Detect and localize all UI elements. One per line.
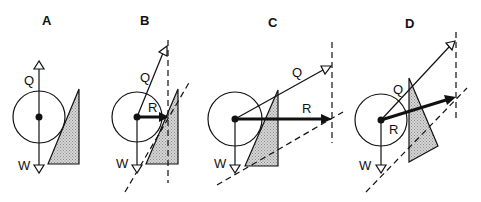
panel-d: D Q R W xyxy=(355,16,467,192)
label-r: R xyxy=(389,122,398,137)
panel-a: A Q W xyxy=(13,13,79,173)
arrowhead-q-icon xyxy=(321,66,331,74)
label-q: Q xyxy=(140,70,150,85)
label-r: R xyxy=(302,101,311,116)
panel-label-c: C xyxy=(268,15,278,30)
wedge xyxy=(245,90,278,166)
arrowhead-q-icon xyxy=(159,46,167,56)
label-w: W xyxy=(359,158,372,173)
arrowhead-w-icon xyxy=(34,165,44,173)
label-w: W xyxy=(18,158,31,173)
center-point xyxy=(232,116,239,123)
arrowhead-w-icon xyxy=(132,165,142,173)
center-point xyxy=(134,114,141,121)
arrowhead-w-icon xyxy=(376,165,386,173)
center-point xyxy=(36,114,43,121)
arrowhead-q-icon xyxy=(34,61,44,69)
arrowhead-r-icon xyxy=(444,95,456,105)
dashed-diagonal-line xyxy=(125,81,190,192)
label-r: R xyxy=(148,100,157,115)
label-q: Q xyxy=(393,82,403,97)
panel-label-d: D xyxy=(405,16,414,31)
arrowhead-r-icon xyxy=(321,114,332,124)
panel-b: B Q R W xyxy=(112,13,190,192)
label-w: W xyxy=(116,156,129,171)
label-w: W xyxy=(214,156,227,171)
panel-c: C Q R W xyxy=(208,15,343,185)
dashed-diagonal-line xyxy=(217,112,343,185)
label-q: Q xyxy=(292,65,302,80)
force-diagram: A Q W B Q R W C xyxy=(0,0,481,202)
label-q: Q xyxy=(24,73,34,88)
panel-label-a: A xyxy=(42,13,52,28)
arrowhead-w-icon xyxy=(230,165,240,173)
panel-label-b: B xyxy=(140,13,149,28)
wedge xyxy=(409,78,438,162)
center-point xyxy=(378,117,385,124)
